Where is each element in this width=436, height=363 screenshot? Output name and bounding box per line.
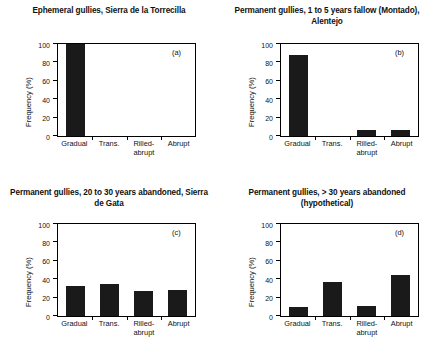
panel-c-ylabel: Frequency (%) xyxy=(24,257,33,307)
bar-abrupt xyxy=(391,275,410,316)
panel-b: Permanent gullies, 1 to 5 years fallow (… xyxy=(218,0,436,182)
bar-cell-gradual xyxy=(281,44,315,136)
y-tick-label: 20 xyxy=(265,295,273,302)
y-tick-label: 40 xyxy=(42,96,50,103)
y-tick xyxy=(53,297,58,298)
panel-b-tag: (b) xyxy=(395,48,404,57)
y-tick xyxy=(276,297,281,298)
panel-b-axes: 020406080100 xyxy=(280,43,419,137)
xlabel-rilled-abrupt: Rilled- abrupt xyxy=(127,319,162,337)
y-tick xyxy=(276,315,281,316)
bar-cell-trans xyxy=(315,44,349,136)
bar-rilled-abrupt xyxy=(134,291,153,316)
y-tick-label: 0 xyxy=(269,133,273,140)
y-tick-label: 100 xyxy=(38,221,50,228)
panel-b-ylabel: Frequency (%) xyxy=(247,77,256,127)
bar-cell-abrupt xyxy=(384,224,418,316)
xlabel-trans: Trans. xyxy=(315,139,350,157)
bar-cell-abrupt xyxy=(161,224,195,316)
y-tick-label: 100 xyxy=(261,221,273,228)
y-tick xyxy=(53,43,58,44)
y-tick xyxy=(276,241,281,242)
y-tick xyxy=(53,117,58,118)
panel-d: Permanent gullies, > 30 years abandoned … xyxy=(218,182,436,363)
y-tick xyxy=(53,223,58,224)
y-tick-label: 80 xyxy=(42,59,50,66)
y-tick-label: 60 xyxy=(42,78,50,85)
panel-a-xlabels: Gradual Trans. Rilled- abrupt Abrupt xyxy=(57,139,196,157)
y-tick-label: 0 xyxy=(269,313,273,320)
xlabel-trans: Trans. xyxy=(92,139,127,157)
y-tick xyxy=(276,223,281,224)
y-tick-label: 40 xyxy=(42,276,50,283)
bar-gradual xyxy=(289,55,308,136)
xlabel-gradual: Gradual xyxy=(280,139,315,157)
bar-cell-trans xyxy=(315,224,349,316)
panel-b-bars xyxy=(281,44,418,136)
bar-rilled-abrupt xyxy=(357,306,376,316)
bar-cell-gradual xyxy=(58,224,92,316)
bar-cell-trans xyxy=(92,224,126,316)
panel-a-plot: 020406080100 Frequency (%) (a) Gradual T… xyxy=(0,0,218,182)
bar-cell-rilled-abrupt xyxy=(350,224,384,316)
xlabel-rilled-abrupt: Rilled- abrupt xyxy=(127,139,162,157)
bar-abrupt xyxy=(391,130,410,136)
panel-d-ylabel: Frequency (%) xyxy=(247,257,256,307)
y-tick xyxy=(276,135,281,136)
panel-d-xlabels: Gradual Trans. Rilled- abrupt Abrupt xyxy=(280,319,419,337)
y-tick-label: 0 xyxy=(46,313,50,320)
bar-gradual xyxy=(289,307,308,316)
y-tick xyxy=(53,61,58,62)
xlabel-abrupt: Abrupt xyxy=(384,139,419,157)
bar-cell-abrupt xyxy=(161,44,195,136)
y-tick-label: 80 xyxy=(265,59,273,66)
y-tick-label: 60 xyxy=(265,78,273,85)
y-tick xyxy=(276,80,281,81)
y-tick xyxy=(276,260,281,261)
y-tick xyxy=(53,315,58,316)
xlabel-rilled-abrupt: Rilled- abrupt xyxy=(350,139,385,157)
y-tick-label: 80 xyxy=(42,239,50,246)
panel-a-tag: (a) xyxy=(172,48,181,57)
panel-a-axes: 020406080100 xyxy=(57,43,196,137)
bar-abrupt xyxy=(168,290,187,316)
bar-rilled-abrupt xyxy=(357,130,376,136)
y-tick xyxy=(276,43,281,44)
bar-gradual xyxy=(66,44,85,136)
bar-cell-rilled-abrupt xyxy=(127,44,161,136)
xlabel-trans: Trans. xyxy=(92,319,127,337)
y-tick-label: 40 xyxy=(265,276,273,283)
panel-b-xlabels: Gradual Trans. Rilled- abrupt Abrupt xyxy=(280,139,419,157)
xlabel-abrupt: Abrupt xyxy=(161,139,196,157)
y-tick xyxy=(53,98,58,99)
panel-b-plot: 020406080100 Frequency (%) (b) Gradual T… xyxy=(218,0,436,182)
panel-c-bars xyxy=(58,224,195,316)
xlabel-abrupt: Abrupt xyxy=(161,319,196,337)
y-tick xyxy=(276,278,281,279)
xlabel-gradual: Gradual xyxy=(280,319,315,337)
panel-c: Permanent gullies, 20 to 30 years abando… xyxy=(0,182,218,363)
bar-trans xyxy=(323,282,342,316)
y-tick xyxy=(276,61,281,62)
y-tick-label: 40 xyxy=(265,96,273,103)
y-tick xyxy=(53,241,58,242)
xlabel-trans: Trans. xyxy=(315,319,350,337)
panel-d-plot: 020406080100 Frequency (%) (d) Gradual T… xyxy=(218,182,436,363)
bar-cell-rilled-abrupt xyxy=(350,44,384,136)
bar-trans xyxy=(100,284,119,316)
bar-cell-trans xyxy=(92,44,126,136)
panel-a-bars xyxy=(58,44,195,136)
y-tick xyxy=(53,260,58,261)
y-tick-label: 20 xyxy=(42,115,50,122)
y-tick-label: 80 xyxy=(265,239,273,246)
panel-d-bars xyxy=(281,224,418,316)
panel-c-xlabels: Gradual Trans. Rilled- abrupt Abrupt xyxy=(57,319,196,337)
bar-cell-gradual xyxy=(58,44,92,136)
y-tick-label: 100 xyxy=(38,41,50,48)
bar-cell-rilled-abrupt xyxy=(127,224,161,316)
bar-gradual xyxy=(66,286,85,316)
y-tick xyxy=(53,80,58,81)
panel-a: Ephemeral gullies, Sierra de la Torrecil… xyxy=(0,0,218,182)
xlabel-abrupt: Abrupt xyxy=(384,319,419,337)
y-tick-label: 100 xyxy=(261,41,273,48)
